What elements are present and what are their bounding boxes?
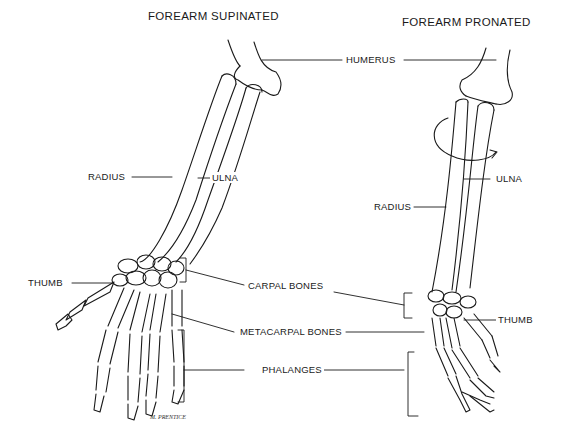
right-humerus [460, 48, 512, 104]
right-radius [432, 102, 456, 292]
label-metacarpal-bones: METACARPAL BONES [238, 326, 344, 337]
label-carpal-bones: CARPAL BONES [246, 280, 325, 291]
left-finger-bones [94, 288, 184, 420]
right-ulna [456, 106, 478, 292]
label-radius-left: RADIUS [86, 171, 127, 182]
skeleton-illustration [0, 0, 563, 443]
left-carpals [112, 255, 184, 288]
forearm-bones-diagram: FOREARM SUPINATED FOREARM PRONATED [0, 0, 563, 443]
label-ulna-right: ULNA [494, 173, 524, 184]
label-humerus: HUMERUS [344, 54, 397, 65]
label-phalanges: PHALANGES [260, 364, 324, 375]
left-thumb-bones [56, 282, 114, 330]
label-thumb-left: THUMB [26, 277, 65, 288]
label-thumb-right: THUMB [496, 314, 535, 325]
label-ulna-left: ULNA [210, 172, 240, 183]
leader-lines [72, 60, 496, 416]
right-carpals [428, 290, 476, 318]
right-finger-bones [432, 318, 494, 412]
label-radius-right: RADIUS [372, 201, 413, 212]
left-humerus [228, 40, 281, 95]
artist-signature: M. PRENTICE [150, 414, 186, 420]
